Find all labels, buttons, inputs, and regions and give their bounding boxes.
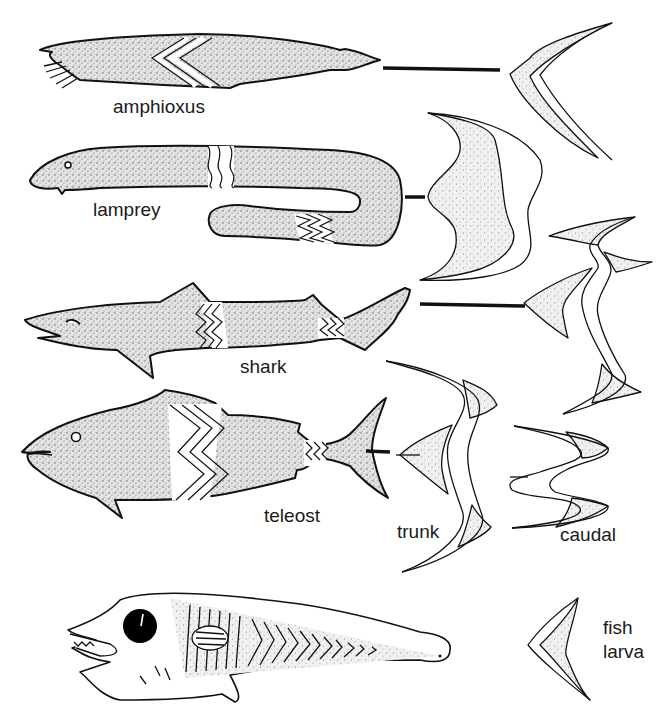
teleost-tail-band (304, 440, 328, 466)
teleost-eye (72, 433, 81, 442)
caudal-wave (510, 426, 608, 528)
fish-larva-eye (123, 609, 157, 643)
lamprey-eye (65, 162, 71, 168)
fish-larva-drawing (68, 593, 450, 702)
amphioxus-connector-line (383, 68, 500, 70)
shark-drawing (25, 217, 652, 414)
label-larva: larva (603, 642, 644, 661)
shark-tail-band (318, 318, 344, 338)
shark-wave (524, 217, 652, 414)
label-shark: shark (240, 357, 286, 376)
lamprey-drawing (30, 113, 542, 280)
label-amphioxus: amphioxus (113, 97, 205, 116)
fish-larva-wave (540, 598, 590, 700)
label-trunk: trunk (397, 522, 439, 541)
lamprey-tail-band (294, 214, 334, 244)
teleost-drawing (22, 390, 390, 518)
figure-canvas: amphioxus lamprey shark teleost trunk ca… (0, 0, 669, 713)
label-fish: fish (603, 618, 633, 637)
label-teleost: teleost (264, 506, 320, 525)
lamprey-myomere-band (208, 146, 234, 188)
lamprey-wave (420, 113, 514, 280)
amphioxus-drawing (40, 23, 612, 160)
amphioxus-wave (510, 23, 612, 158)
label-lamprey: lamprey (93, 200, 161, 219)
label-caudal: caudal (560, 525, 616, 544)
teleost-connector-line (366, 451, 390, 452)
illustration (0, 0, 669, 713)
shark-connector-line (420, 304, 525, 306)
